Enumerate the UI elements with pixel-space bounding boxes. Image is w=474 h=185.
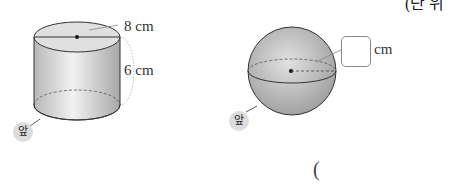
- cylinder-front-badge: 앞: [13, 122, 33, 142]
- cylinder-height-label: 6 cm: [124, 62, 154, 79]
- cylinder-figure: [30, 22, 134, 126]
- sphere-radius-answer-box[interactable]: [341, 36, 371, 67]
- answer-open-paren: (: [313, 158, 320, 181]
- sphere-figure: [246, 27, 341, 115]
- sphere-radius-unit: cm: [374, 41, 392, 58]
- cylinder-diameter-label: 8 cm: [124, 18, 154, 35]
- sphere-front-badge: 앞: [229, 111, 249, 131]
- geometry-figures: [0, 0, 474, 185]
